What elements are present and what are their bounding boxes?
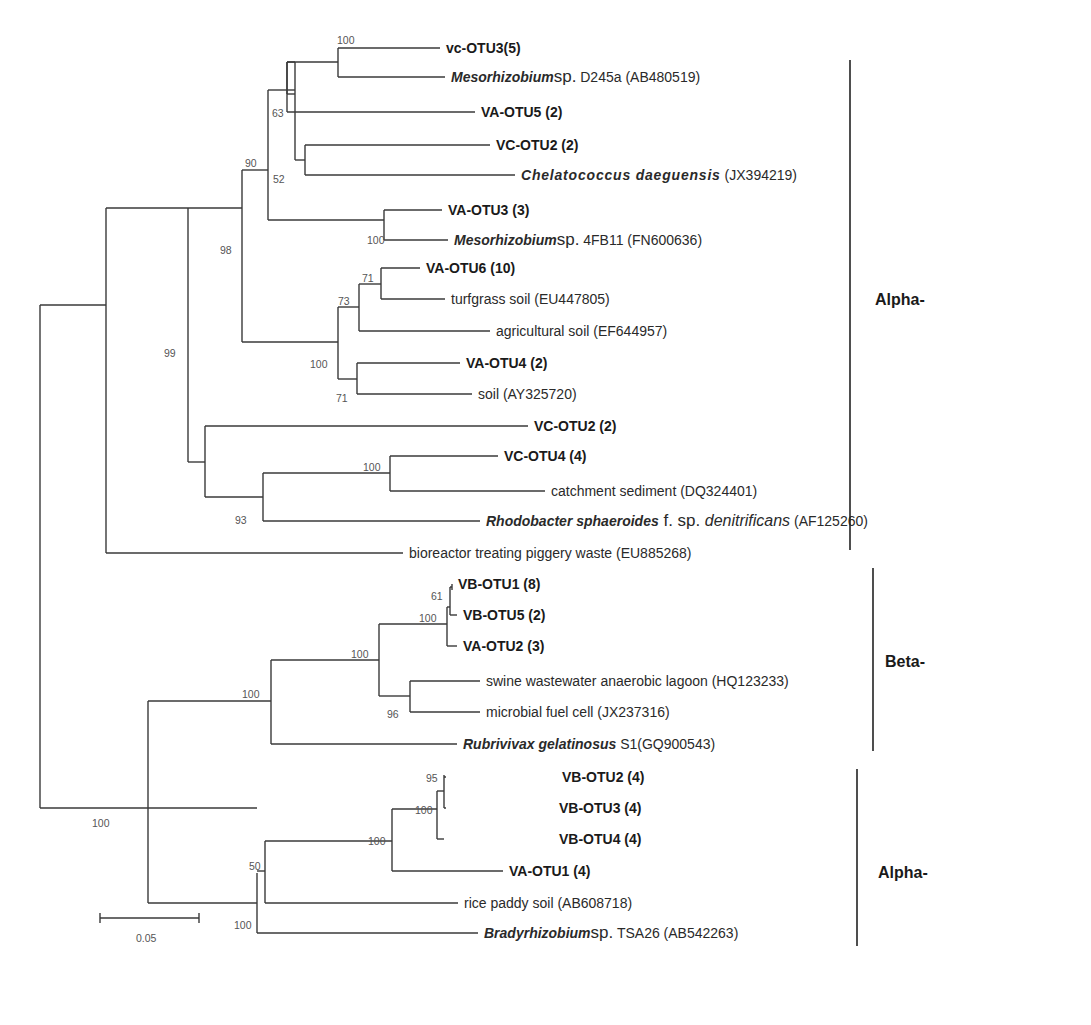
leaf-vc-otu4: VC-OTU4 (4) [504,448,586,464]
leaf-turfgrass: turfgrass soil (EU447805) [451,291,610,307]
leaf-vc-otu2-a: VC-OTU2 (2) [496,137,578,153]
bootstrap-value: 100 [242,688,260,700]
tree-branches [40,48,545,933]
bootstrap-value: 96 [387,708,399,720]
bootstrap-value: 95 [426,772,438,784]
leaf-vb-otu3: VB-OTU3 (4) [559,800,641,816]
leaf-vc-otu3: vc-OTU3(5) [446,40,521,56]
clade-brackets: Alpha-Beta-Alpha- [850,60,928,946]
leaf-chelatococcus: Chelatococcus daeguensis (JX394219) [521,167,797,183]
leaf-rice: rice paddy soil (AB608718) [464,895,632,911]
bootstrap-value: 93 [235,514,247,526]
leaf-meso-d245a: Mesorhizobiumsp. D245a (AB480519) [451,67,700,86]
bootstrap-value: 50 [249,860,261,872]
bootstrap-value: 52 [273,173,285,185]
bootstrap-value: 61 [431,590,443,602]
bootstrap-value: 100 [337,34,355,46]
leaf-vc-otu2-b: VC-OTU2 (2) [534,418,616,434]
clade-label: Alpha- [875,291,925,308]
leaf-agricultural: agricultural soil (EF644957) [496,323,667,339]
leaf-swine: swine wastewater anaerobic lagoon (HQ123… [486,673,789,689]
leaf-va-otu6: VA-OTU6 (10) [426,260,515,276]
leaf-va-otu5: VA-OTU5 (2) [481,104,562,120]
leaf-va-otu1: VA-OTU1 (4) [509,863,590,879]
leaf-soil: soil (AY325720) [478,386,577,402]
leaf-vb-otu1: VB-OTU1 (8) [458,576,540,592]
leaf-vb-otu2: VB-OTU2 (4) [562,769,644,785]
bootstrap-value: 100 [310,358,328,370]
bootstrap-value: 71 [362,272,374,284]
leaf-catchment: catchment sediment (DQ324401) [551,483,757,499]
leaf-vb-otu5: VB-OTU5 (2) [463,607,545,623]
leaf-va-otu3: VA-OTU3 (3) [448,202,529,218]
bootstrap-value: 100 [419,612,437,624]
leaf-va-otu2: VA-OTU2 (3) [463,638,544,654]
clade-label: Alpha- [878,864,928,881]
bootstrap-value: 98 [220,244,232,256]
bootstrap-value: 100 [363,461,381,473]
bootstrap-value: 100 [367,234,385,246]
scale-bar: 0.05 [100,913,199,944]
bootstrap-value: 71 [336,392,348,404]
bootstrap-value: 73 [338,295,350,307]
bootstrap-value: 63 [272,107,284,119]
leaf-bioreactor: bioreactor treating piggery waste (EU885… [409,545,692,561]
clade-label: Beta- [885,653,925,670]
bootstrap-value: 100 [415,804,433,816]
phylogenetic-tree: 1006352901009871731007199100936110010096… [0,0,1091,1025]
bootstrap-value: 90 [245,157,257,169]
bootstrap-value: 99 [164,347,176,359]
leaf-meso-4fb11: Mesorhizobiumsp. 4FB11 (FN600636) [454,230,702,249]
bootstrap-value: 100 [234,919,252,931]
bootstrap-value: 100 [92,817,110,829]
leaf-rubrivivax: Rubrivivax gelatinosus S1(GQ900543) [463,736,715,752]
leaf-bradyrhizobium: Bradyrhizobiumsp. TSA26 (AB542263) [484,923,738,942]
leaf-vb-otu4: VB-OTU4 (4) [559,831,641,847]
bootstrap-value: 100 [351,648,369,660]
scale-bar-label: 0.05 [136,932,157,944]
leaf-mfc: microbial fuel cell (JX237316) [486,704,670,720]
leaf-va-otu4: VA-OTU4 (2) [466,355,547,371]
bootstrap-value: 100 [368,835,386,847]
leaf-rhodobacter: Rhodobacter sphaeroides f. sp. denitrifi… [486,511,868,530]
